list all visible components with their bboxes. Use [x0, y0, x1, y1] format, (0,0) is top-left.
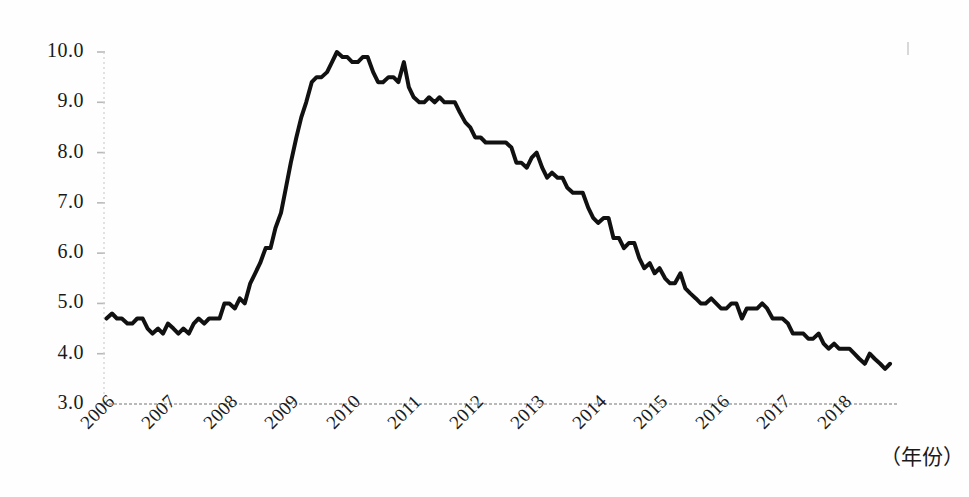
- y-tick-label: 9.0: [28, 89, 84, 112]
- y-tick-label: 4.0: [28, 341, 84, 364]
- y-tick-label: 8.0: [28, 140, 84, 163]
- y-tick-label: 5.0: [28, 290, 84, 313]
- scan-artifact-mark: [907, 42, 909, 55]
- y-tick-label: 6.0: [28, 240, 84, 263]
- unemployment-rate-line: [106, 52, 890, 369]
- y-tick-label: 10.0: [28, 39, 84, 62]
- x-axis-title: （年份）: [880, 440, 964, 470]
- chart-figure: 3.04.05.06.07.08.09.010.0 20062007200820…: [0, 0, 969, 497]
- y-tick-label: 7.0: [28, 190, 84, 213]
- y-tick-label: 3.0: [28, 391, 84, 414]
